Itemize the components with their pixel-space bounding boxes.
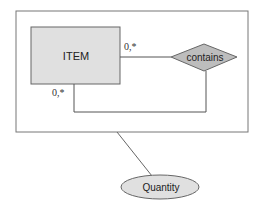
cardinality-right: 0,*: [124, 41, 137, 52]
relationship-contains[interactable]: contains: [171, 44, 237, 71]
entity-label: ITEM: [63, 50, 89, 62]
attribute-label: Quantity: [142, 182, 179, 193]
relationship-label: contains: [186, 52, 223, 63]
attribute-line: [117, 132, 152, 176]
cardinality-bottom: 0,*: [52, 87, 65, 98]
er-diagram: ITEM contains 0,* 0,* Quantity: [0, 0, 263, 212]
attribute-quantity[interactable]: Quantity: [121, 175, 199, 199]
entity-item[interactable]: ITEM: [31, 27, 120, 84]
